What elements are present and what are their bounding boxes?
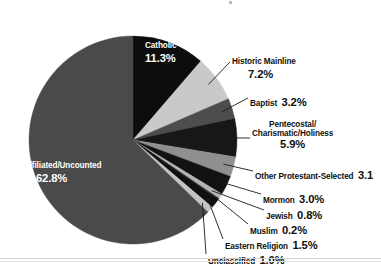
slice-label-historic-mainline-value: 7.2% bbox=[248, 68, 296, 81]
slice-label-mormon-value: 3.0% bbox=[299, 193, 324, 205]
page-rule bbox=[0, 258, 381, 259]
slice-label-catholic-name: Catholic bbox=[145, 41, 177, 50]
page-rule-secondary bbox=[0, 261, 381, 262]
slice-label-pentecostal-name-line1: Pentecostal/ bbox=[252, 120, 333, 129]
slice-label-unaffiliated-name: Unaffiliated/Uncounted bbox=[14, 161, 101, 170]
pie-chart-figure: Catholic 11.3% Unaffiliated/Uncounted 62… bbox=[0, 0, 381, 272]
slice-label-unclassified-value: 1.0% bbox=[259, 254, 284, 266]
slice-label-historic-mainline-name: Historic Mainline bbox=[232, 57, 296, 66]
slice-label-pentecostal-name-line2: Charismatic/Holiness bbox=[252, 129, 333, 138]
slice-label-baptist-name: Baptist bbox=[250, 99, 277, 108]
slice-label-unaffiliated-value: 62.8% bbox=[36, 172, 101, 185]
slice-label-baptist-value: 3.2% bbox=[281, 96, 306, 108]
slice-label-mormon-name: Mormon bbox=[263, 196, 295, 205]
slice-label-pentecostal: Pentecostal/ Charismatic/Holiness 5.9% bbox=[252, 120, 333, 151]
slice-label-catholic-value: 11.3% bbox=[145, 52, 177, 65]
slice-label-other-protestant-value: 3.1 bbox=[358, 169, 373, 181]
slice-label-baptist: Baptist 3.2% bbox=[250, 92, 307, 110]
slice-label-pentecostal-value: 5.9% bbox=[252, 138, 333, 151]
slice-label-other-protestant-name: Other Protestant-Selected bbox=[255, 172, 354, 181]
slice-label-historic-mainline: Historic Mainline 7.2% bbox=[232, 50, 296, 80]
slice-label-unaffiliated: Unaffiliated/Uncounted 62.8% bbox=[14, 154, 101, 184]
slice-label-catholic: Catholic 11.3% bbox=[145, 34, 177, 64]
slice-label-eastern-religion-value: 1.5% bbox=[292, 239, 317, 251]
slice-label-other-protestant: Other Protestant-Selected 3.1 bbox=[255, 165, 373, 183]
